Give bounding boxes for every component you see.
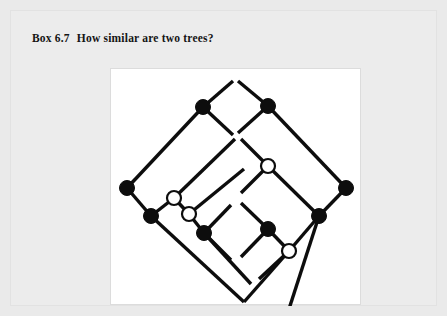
tree-node-filled — [261, 222, 276, 237]
tree-node-filled — [261, 99, 276, 114]
tree-node-open — [182, 207, 196, 221]
tree-node-filled — [197, 226, 212, 241]
tree-node-filled — [339, 181, 354, 196]
tree-branch — [244, 251, 289, 302]
tree-node-open — [282, 244, 296, 258]
tree-nodes-layer — [120, 99, 354, 259]
tree-node-filled — [120, 181, 135, 196]
tree-node-filled — [196, 100, 211, 115]
box-card: Box 6.7How similar are two trees? — [10, 10, 437, 306]
screenshot-root: Box 6.7How similar are two trees? — [0, 0, 447, 316]
tree-node-filled — [312, 209, 327, 224]
tree-node-open — [167, 191, 181, 205]
tree-node-filled — [144, 209, 159, 224]
tree-branch — [289, 216, 319, 306]
figure-panel — [110, 68, 361, 305]
tree-branch — [174, 139, 235, 198]
tree-edges-layer — [127, 81, 346, 306]
two-trees-figure — [111, 69, 362, 306]
tree-node-open — [261, 159, 275, 173]
box-title: Box 6.7How similar are two trees? — [32, 32, 214, 44]
box-number: Box 6.7 — [32, 32, 70, 44]
tree-branch — [204, 233, 251, 284]
tree-branch — [268, 166, 319, 216]
box-title-text: How similar are two trees? — [77, 32, 214, 44]
tree-branch — [127, 107, 203, 188]
